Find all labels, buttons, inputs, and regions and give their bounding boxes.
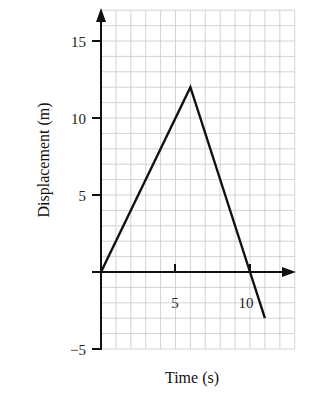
displacement-time-chart: 15 10 5 −5 5 10 Time (s) Displacement (m…	[0, 0, 315, 417]
y-tick-label-10: 10	[71, 111, 86, 127]
displacement-line	[101, 87, 265, 318]
x-axis-arrow-icon	[282, 267, 296, 277]
axes	[92, 8, 296, 350]
y-tick-label-5: 5	[79, 188, 87, 204]
grid	[101, 10, 295, 349]
x-axis-label: Time (s)	[165, 369, 219, 387]
y-tick-label-neg5: −5	[70, 342, 86, 358]
x-tick-label-5: 5	[171, 295, 179, 311]
y-axis-label: Displacement (m)	[35, 102, 53, 217]
x-tick-label-10: 10	[239, 295, 254, 311]
y-tick-label-15: 15	[71, 34, 86, 50]
